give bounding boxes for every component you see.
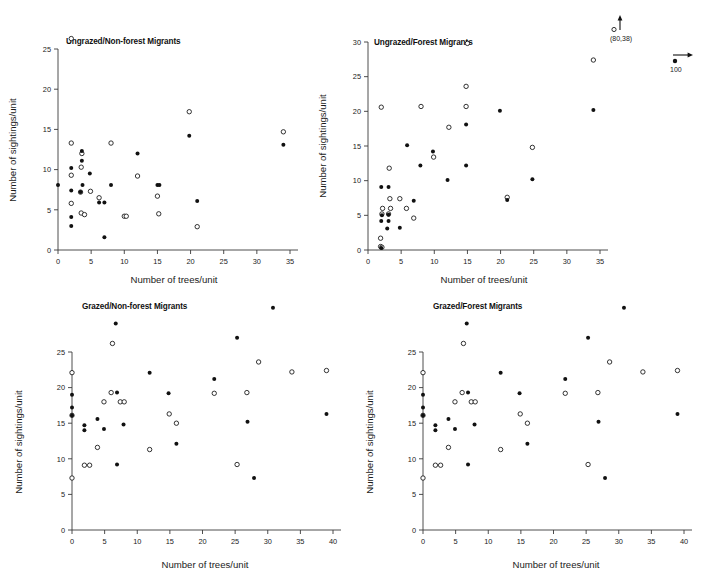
y-tick-label: 5 — [61, 490, 65, 499]
data-point — [453, 400, 457, 404]
data-point — [69, 201, 73, 205]
x-tick-label: 35 — [596, 257, 604, 266]
data-point — [102, 400, 106, 404]
data-point — [80, 149, 84, 153]
data-point — [460, 390, 464, 394]
y-tick-label: 0 — [47, 246, 51, 255]
data-point — [155, 194, 159, 198]
panel-title: Ungrazed/Non-forest Migrants — [66, 37, 181, 46]
x-tick-label: 25 — [231, 537, 239, 546]
annotation-offscale-point: (80,38) — [606, 14, 666, 48]
x-axis-title: Number of trees/unit — [441, 274, 528, 285]
data-point — [518, 412, 522, 416]
panel-title: Grazed/Forest Migrants — [433, 302, 523, 311]
data-point — [157, 212, 161, 216]
data-point — [115, 463, 119, 467]
x-tick-label: 30 — [264, 537, 272, 546]
y-tick-label: 5 — [412, 490, 416, 499]
data-point — [387, 219, 391, 223]
data-point — [187, 110, 191, 114]
filled-circle-marker — [673, 59, 677, 63]
y-axis-title: Number of sightings/unit — [317, 94, 328, 198]
data-point — [235, 336, 239, 340]
y-axis-title: Number of sightings/unit — [13, 390, 24, 494]
panel-title: Ungrazed/Forest Migrants — [374, 38, 473, 47]
data-point — [109, 183, 113, 187]
x-tick-label: 10 — [120, 257, 128, 266]
data-point — [256, 360, 260, 364]
data-point — [167, 391, 171, 395]
data-point — [69, 215, 73, 219]
data-point — [421, 393, 425, 397]
data-point — [82, 423, 86, 427]
data-point — [433, 423, 437, 427]
data-point — [157, 183, 161, 187]
x-tick-label: 40 — [329, 537, 337, 546]
data-point — [591, 58, 595, 62]
data-point — [115, 391, 119, 395]
data-point — [102, 427, 106, 431]
data-point — [88, 189, 92, 193]
data-point — [379, 105, 383, 109]
x-tick-label: 30 — [615, 537, 623, 546]
data-point — [385, 227, 389, 231]
data-point — [466, 463, 470, 467]
x-tick-label: 20 — [186, 257, 194, 266]
y-axis-title: Number of sightings/unit — [364, 390, 375, 494]
x-tick-label: 0 — [366, 257, 370, 266]
data-point — [607, 360, 611, 364]
x-tick-label: 20 — [549, 537, 557, 546]
data-point — [464, 104, 468, 108]
data-point — [473, 400, 477, 404]
data-point — [70, 413, 74, 417]
data-point — [597, 420, 601, 424]
y-tick-label: 0 — [61, 526, 65, 535]
open-circle-marker — [612, 27, 616, 31]
data-point — [525, 442, 529, 446]
right-arrow-icon — [673, 53, 693, 58]
data-point — [69, 189, 73, 193]
data-point — [80, 159, 84, 163]
data-point — [324, 412, 328, 416]
data-point — [412, 216, 416, 220]
data-point — [102, 235, 106, 239]
data-point — [563, 377, 567, 381]
data-point — [69, 141, 73, 145]
data-point — [563, 391, 567, 395]
data-point — [453, 427, 457, 431]
data-point — [281, 130, 285, 134]
data-series-open-circle — [378, 41, 595, 249]
y-tick-label: 25 — [408, 348, 416, 357]
figure-scatter-matrix: Ungrazed/Non-forest Migrants051015202530… — [0, 0, 714, 585]
data-point — [82, 428, 86, 432]
data-point — [252, 476, 256, 480]
data-point — [518, 391, 522, 395]
scatter-plot-grazed-forest: Grazed/Forest Migrants051015202530354005… — [357, 292, 714, 585]
data-point — [135, 174, 139, 178]
panel-grazed-forest-migrants: Grazed/Forest Migrants051015202530354005… — [357, 292, 714, 585]
data-point — [379, 246, 383, 250]
data-point — [378, 236, 382, 240]
data-point — [69, 166, 73, 170]
data-point — [405, 143, 409, 147]
data-point — [473, 423, 477, 427]
data-point — [465, 41, 469, 45]
data-series-filled-circle — [379, 108, 595, 250]
x-tick-label: 10 — [484, 537, 492, 546]
data-point — [324, 368, 328, 372]
x-tick-label: 35 — [286, 257, 294, 266]
data-point — [147, 447, 151, 451]
data-point — [379, 185, 383, 189]
data-point — [498, 109, 502, 113]
x-tick-label: 15 — [463, 257, 471, 266]
x-tick-label: 35 — [647, 537, 655, 546]
data-point — [195, 199, 199, 203]
data-point — [525, 421, 529, 425]
data-point — [97, 201, 101, 205]
axis-lines — [72, 352, 341, 530]
x-tick-label: 0 — [56, 257, 60, 266]
x-tick-label: 10 — [430, 257, 438, 266]
data-point — [387, 213, 391, 217]
data-point — [465, 322, 469, 326]
data-point — [530, 145, 534, 149]
